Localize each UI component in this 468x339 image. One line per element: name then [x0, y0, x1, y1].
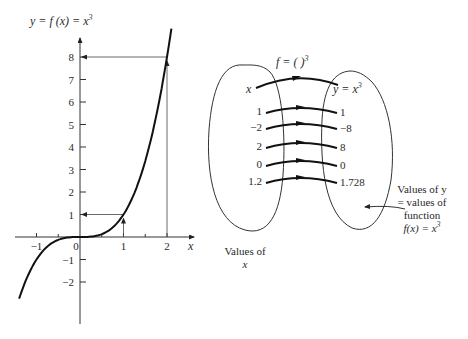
map-arrow: [266, 178, 337, 183]
output-value: 8: [340, 141, 346, 153]
map-arrow: [266, 108, 337, 113]
mapping-diagram: f = ( )3 x y = x3 11−2−828001.21.728 Val…: [208, 54, 447, 270]
x-tick-label: −1: [31, 240, 43, 252]
y-tick-label: 5: [69, 119, 75, 131]
output-value: 1.728: [340, 176, 365, 188]
x-tick-label: 1: [121, 240, 127, 252]
mapping-pair: 1.21.728: [248, 175, 365, 188]
input-value: −2: [250, 121, 262, 133]
input-value: 0: [257, 158, 263, 170]
codomain-caption-line1: Values of y: [397, 183, 447, 195]
y-ticks: 87654321−1−2: [62, 51, 86, 288]
mapping-pairs: 11−2−828001.21.728: [248, 105, 365, 188]
header-map-arrow: [256, 78, 338, 88]
figure: y = f (x) = x3 x −1012 87654321−1−2 f = …: [0, 0, 468, 339]
output-value: −8: [340, 122, 352, 134]
output-value: 1: [340, 106, 346, 118]
y-tick-label: −2: [62, 276, 74, 288]
y-tick-label: 3: [69, 164, 75, 176]
input-value: 2: [257, 140, 263, 152]
codomain-caption-line3: function: [404, 209, 441, 221]
x-tick-label: 2: [164, 240, 170, 252]
x-axis-label: x: [187, 239, 194, 253]
codomain-caption-line2: = values of: [398, 196, 447, 208]
x-tick-label: 0: [73, 240, 79, 252]
cubic-graph: y = f (x) = x3 x −1012 87654321−1−2: [15, 13, 194, 324]
input-value: 1: [257, 105, 263, 117]
y-tick-label: 6: [69, 96, 75, 108]
y-tick-label: 2: [69, 186, 75, 198]
cubic-curve: [19, 29, 171, 299]
codomain-header: y = x3: [332, 81, 362, 96]
output-value: 0: [340, 159, 346, 171]
mapping-pair: 11: [257, 105, 346, 118]
y-tick-label: 8: [69, 51, 75, 63]
function-label: f = ( )3: [276, 54, 308, 69]
domain-header: x: [245, 82, 252, 96]
map-arrow: [266, 161, 337, 166]
map-arrow: [266, 124, 337, 129]
codomain-caption-line4: f(x) = x3: [403, 220, 440, 235]
domain-caption-line2: x: [242, 258, 248, 270]
y-tick-label: 7: [69, 74, 75, 86]
map-arrow: [266, 143, 337, 148]
input-value: 1.2: [248, 175, 262, 187]
y-tick-label: −1: [62, 254, 74, 266]
y-tick-label: 1: [69, 209, 75, 221]
y-tick-label: 4: [69, 141, 75, 153]
mapping-pair: −2−8: [250, 121, 352, 134]
guide-lines: [82, 57, 167, 237]
mapping-pair: 00: [257, 158, 347, 171]
y-axis-label: y = f (x) = x3: [29, 13, 93, 28]
domain-caption-line1: Values of: [224, 245, 266, 257]
mapping-pair: 28: [257, 140, 347, 153]
